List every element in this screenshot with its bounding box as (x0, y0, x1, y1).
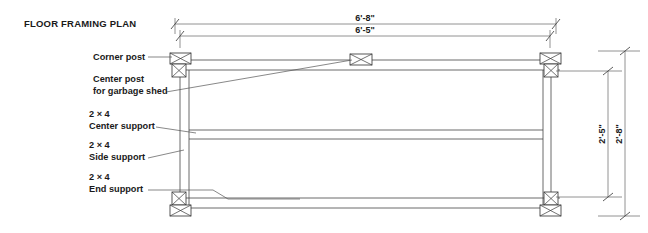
floor-framing-plan-figure: FLOOR FRAMING PLAN 6'-8" 6'-5" (0, 0, 648, 233)
callout-end-support-line-0: 2 × 4 (89, 172, 111, 182)
leader-side-support (148, 150, 184, 158)
dimension-label-top-outer: 6'-8" (355, 13, 374, 23)
callout-corner-post-line-0: Corner post (93, 52, 145, 62)
frame-structure (175, 60, 560, 212)
leader-center-post (166, 60, 352, 92)
callout-center-support-line-0: 2 × 4 (89, 109, 111, 119)
callout-end-support-line-1: End support (89, 184, 143, 194)
dimension-label-right-inner: 2'-5" (597, 124, 607, 143)
callout-center-post-line-1: for garbage shed (93, 86, 168, 96)
callout-side-support-line-1: Side support (89, 152, 145, 162)
page-title: FLOOR FRAMING PLAN (24, 18, 136, 29)
framing-plan-svg: FLOOR FRAMING PLAN 6'-8" 6'-5" (0, 0, 648, 233)
corner-post-bottom-left (170, 192, 191, 216)
callout-center-support-line-1: Center support (89, 121, 155, 131)
dimension-label-right-outer: 2'-8" (614, 124, 624, 143)
dimension-top-inner: 6'-5" (176, 25, 554, 48)
corner-post-top-left (170, 53, 191, 77)
callout-center-post-line-0: Center post (93, 74, 144, 84)
dimension-right-inner: 2'-5" (556, 67, 622, 201)
callout-side-support-line-0: 2 × 4 (89, 140, 111, 150)
center-post-top (350, 54, 372, 65)
dimension-label-top-inner: 6'-5" (355, 25, 374, 35)
